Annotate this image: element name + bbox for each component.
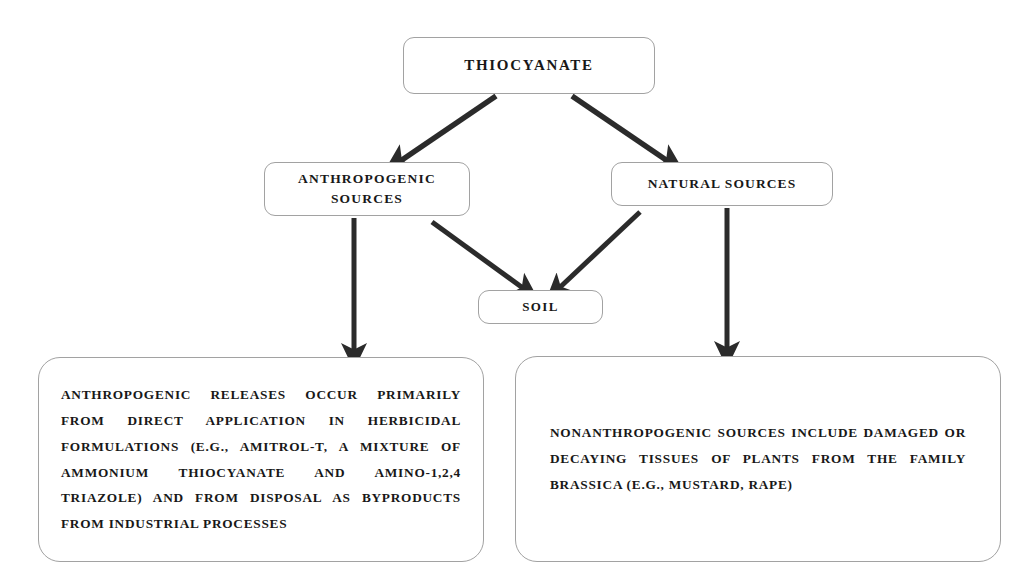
nonanthropogenic-description-text: NONANTHROPOGENIC SOURCES INCLUDE DAMAGED…	[550, 420, 966, 498]
arrow-anthropogenic-to-soil	[432, 222, 527, 291]
node-natural-sources[interactable]: NATURAL SOURCES	[611, 162, 833, 206]
node-anthropogenic-sources[interactable]: ANTHROPOGENIC SOURCES	[264, 162, 470, 216]
node-natural-sources-label: NATURAL SOURCES	[648, 174, 797, 195]
node-soil-label: SOIL	[522, 297, 559, 317]
textbox-anthropogenic-description[interactable]: ANTHROPOGENIC RELEASES OCCUR PRIMARILY F…	[38, 357, 484, 562]
arrow-natural-to-soil	[556, 212, 640, 291]
node-anthropogenic-sources-label: ANTHROPOGENIC SOURCES	[298, 169, 436, 210]
arrow-thiocyanate-to-anthropogenic	[396, 96, 496, 164]
node-thiocyanate-label: THIOCYANATE	[464, 54, 594, 77]
diagram-canvas: THIOCYANATE ANTHROPOGENIC SOURCES NATURA…	[0, 0, 1022, 585]
node-thiocyanate[interactable]: THIOCYANATE	[403, 37, 655, 94]
textbox-nonanthropogenic-description[interactable]: NONANTHROPOGENIC SOURCES INCLUDE DAMAGED…	[515, 356, 1001, 562]
node-soil[interactable]: SOIL	[478, 290, 603, 324]
anthropogenic-description-text: ANTHROPOGENIC RELEASES OCCUR PRIMARILY F…	[61, 382, 461, 538]
arrow-thiocyanate-to-natural	[572, 96, 672, 164]
